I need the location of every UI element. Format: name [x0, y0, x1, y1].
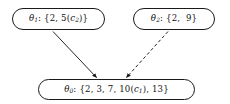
edge-theta1-to-theta0 [53, 32, 97, 78]
node-theta1-label: θ1:{2, 5(c2)} [29, 14, 88, 23]
node-theta0-label: θ0:{2, 3, 7, 10(c1), 13} [64, 85, 169, 94]
node-theta0[interactable]: θ0:{2, 3, 7, 10(c1), 13} [38, 79, 195, 100]
node-theta2[interactable]: θ2:{2, 9} [133, 8, 215, 30]
diagram-canvas: θ1:{2, 5(c2)} θ2:{2, 9} θ0:{2, 3, 7, 10(… [0, 0, 230, 104]
node-theta1[interactable]: θ1:{2, 5(c2)} [12, 8, 105, 30]
edge-theta2-to-theta0 [127, 32, 169, 78]
node-theta2-label: θ2:{2, 9} [151, 14, 197, 23]
